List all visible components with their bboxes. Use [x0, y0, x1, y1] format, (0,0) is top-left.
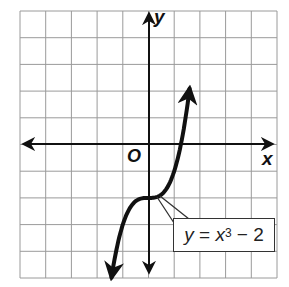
equation-exponent: 3: [225, 226, 232, 240]
equation-rest: − 2: [232, 224, 264, 246]
equation-var: x: [215, 224, 225, 246]
x-axis-label: x: [262, 148, 273, 170]
equation-lhs: y: [184, 224, 194, 246]
origin-label: O: [127, 146, 141, 167]
equation-equals: =: [194, 224, 216, 246]
y-axis-label: y: [154, 6, 165, 28]
equation-label: y = x 3 − 2: [173, 218, 275, 252]
